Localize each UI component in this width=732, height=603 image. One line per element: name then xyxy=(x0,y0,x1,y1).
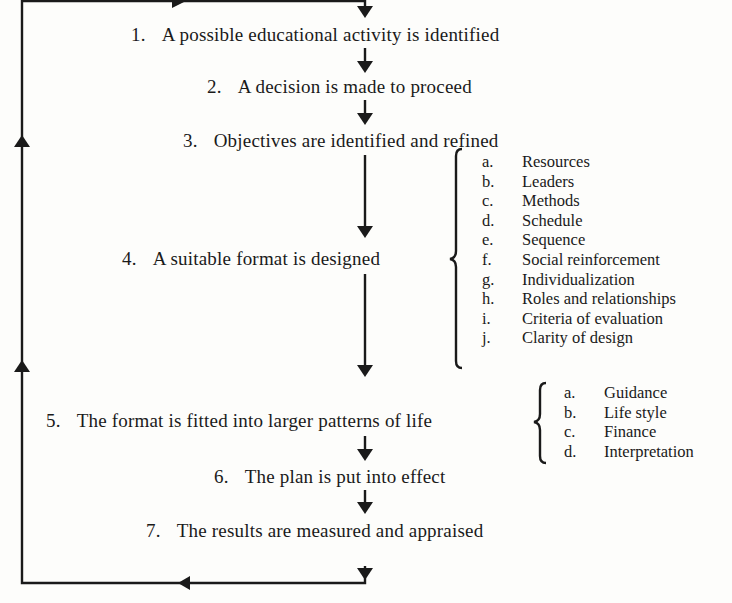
format-component: g.Individualization xyxy=(482,270,676,290)
format-component: j.Clarity of design xyxy=(482,328,676,348)
brace-format xyxy=(450,149,462,368)
arrowhead-into-6 xyxy=(357,449,373,461)
brace-life-patterns xyxy=(534,383,546,463)
life-pattern: a.Guidance xyxy=(564,383,694,403)
step-2: 2.A decision is made to proceed xyxy=(207,76,472,98)
format-components-list: a.Resources b.Leaders c.Methods d.Schedu… xyxy=(482,152,676,348)
life-patterns-list: a.Guidance b.Life style c.Finance d.Inte… xyxy=(564,383,694,461)
arrowhead-bottom-left xyxy=(178,576,190,590)
step-4: 4.A suitable format is designed xyxy=(122,248,380,270)
format-component: c.Methods xyxy=(482,191,676,211)
format-component: i.Criteria of evaluation xyxy=(482,309,676,329)
arrowhead-loop-up-upper xyxy=(14,135,30,147)
life-pattern: c.Finance xyxy=(564,422,694,442)
step-7: 7.The results are measured and appraised xyxy=(146,520,483,542)
arrowhead-into-2 xyxy=(357,61,373,73)
format-component: f.Social reinforcement xyxy=(482,250,676,270)
arrowhead-loop-up-lower xyxy=(14,360,30,372)
step-6: 6.The plan is put into effect xyxy=(214,466,445,488)
step-5: 5.The format is fitted into larger patte… xyxy=(46,410,432,432)
step-3: 3.Objectives are identified and refined xyxy=(183,130,499,152)
life-pattern: d.Interpretation xyxy=(564,442,694,462)
arrowhead-into-1 xyxy=(357,6,373,18)
life-pattern: b.Life style xyxy=(564,403,694,423)
format-component: b.Leaders xyxy=(482,172,676,192)
arrowhead-into-4 xyxy=(357,226,373,238)
format-component: a.Resources xyxy=(482,152,676,172)
arrowhead-into-7 xyxy=(357,502,373,514)
arrowhead-top xyxy=(172,0,186,8)
arrowhead-after-7 xyxy=(357,568,373,580)
format-component: e.Sequence xyxy=(482,230,676,250)
arrowhead-into-3 xyxy=(357,113,373,125)
format-component: h.Roles and relationships xyxy=(482,289,676,309)
format-component: d.Schedule xyxy=(482,211,676,231)
step-1: 1.A possible educational activity is ide… xyxy=(131,24,499,46)
arrowhead-into-5 xyxy=(357,365,373,377)
